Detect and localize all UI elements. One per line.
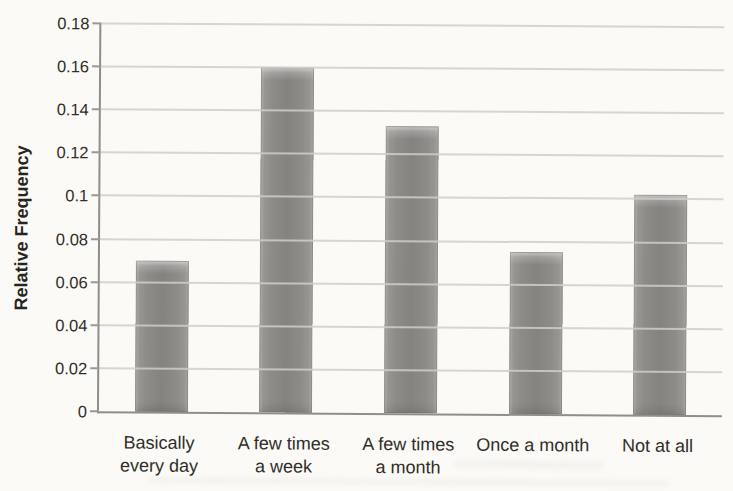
y-axis-tick <box>92 152 101 154</box>
y-tick-label: 0 <box>0 401 87 422</box>
y-tick-label: 0.16 <box>1 56 89 77</box>
gridline <box>101 22 724 28</box>
y-axis-tick <box>91 324 100 326</box>
y-tick-label: 0.12 <box>1 142 89 163</box>
x-tick-label: Not at all <box>595 434 720 458</box>
y-axis-tick <box>91 238 100 240</box>
y-axis-tick <box>92 109 101 111</box>
y-axis-tick <box>90 367 99 369</box>
x-tick-label-line: Basically <box>97 431 222 455</box>
y-axis-tick <box>91 195 100 197</box>
scanned-page: Relative Frequency 00.020.040.060.080.10… <box>0 0 733 491</box>
y-tick-label: 0.1 <box>0 185 88 206</box>
x-tick-label-line: Not at all <box>595 434 720 458</box>
y-axis-tick <box>92 65 101 67</box>
x-tick-label: A few timesa month <box>346 433 471 480</box>
gridline <box>101 65 724 71</box>
x-tick-label: Basicallyevery day <box>97 431 222 478</box>
chart: Relative Frequency 00.020.040.060.080.10… <box>0 0 733 491</box>
y-tick-label: 0.06 <box>0 271 88 292</box>
bleed-through-artifact <box>454 460 604 470</box>
y-tick-label: 0.08 <box>0 228 88 249</box>
y-tick-label: 0.18 <box>1 13 89 34</box>
x-tick-label-line: every day <box>97 454 222 478</box>
y-axis-tick <box>91 281 100 283</box>
x-tick-label: Once a month <box>471 434 596 458</box>
y-tick-label: 0.04 <box>0 315 88 336</box>
y-axis-tick <box>92 22 101 24</box>
y-tick-label: 0.02 <box>0 358 87 379</box>
y-tick-label: 0.14 <box>1 99 89 120</box>
x-tick-label-line: A few times <box>346 433 471 457</box>
x-tick-label-line: A few times <box>221 432 346 456</box>
bar <box>509 252 563 414</box>
gridline <box>101 109 724 115</box>
x-tick-label: A few timesa week <box>221 432 346 479</box>
plot-area <box>97 23 724 417</box>
x-tick-label-line: a week <box>221 455 346 479</box>
x-tick-label-line: Once a month <box>471 434 596 458</box>
x-tick-label-line: a month <box>346 456 471 480</box>
bar <box>633 195 687 415</box>
y-axis-tick <box>90 410 99 412</box>
